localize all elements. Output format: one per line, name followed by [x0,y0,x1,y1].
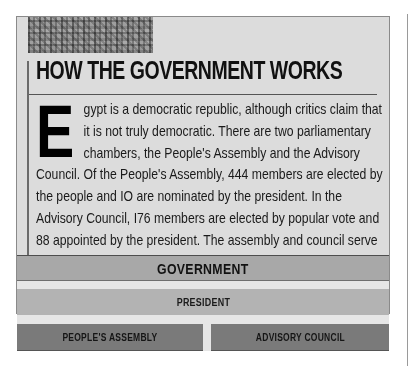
title-underline [29,94,377,95]
page-edge-rule [407,14,408,366]
government-info-panel: HOW THE GOVERNMENT WORKS Egypt is a demo… [16,16,390,314]
peoples-assembly-box: PEOPLE'S ASSEMBLY [17,324,203,351]
government-label: GOVERNMENT [157,256,248,281]
diagram-spacer [17,315,389,324]
body-paragraph: Egypt is a democratic republic, although… [36,99,386,273]
section-title: HOW THE GOVERNMENT WORKS [36,58,342,83]
government-bar: GOVERNMENT [17,255,389,281]
president-bar: PRESIDENT [17,289,389,315]
diagram-spacer [17,281,389,289]
body-text: gypt is a democratic republic, although … [36,101,383,270]
advisory-council-box: ADVISORY COUNCIL [211,324,389,351]
body-paragraph-container: Egypt is a democratic republic, although… [36,99,386,273]
chambers-row: PEOPLE'S ASSEMBLY ADVISORY COUNCIL [17,324,391,351]
drop-cap: E [36,103,74,163]
president-label: PRESIDENT [176,289,229,315]
advisory-council-label: ADVISORY COUNCIL [255,324,344,351]
left-accent-rule [27,61,29,267]
hieroglyph-image [28,17,153,53]
peoples-assembly-label: PEOPLE'S ASSEMBLY [62,324,157,351]
chamber-divider [203,324,211,351]
